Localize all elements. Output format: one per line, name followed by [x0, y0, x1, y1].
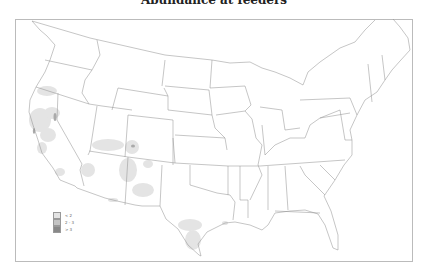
legend-item-mid: 2 - 3 [53, 219, 74, 226]
legend-label: > 3 [65, 227, 72, 232]
legend-swatch-low [53, 212, 61, 219]
legend-label: < 2 [65, 213, 72, 218]
legend-label: 2 - 3 [65, 220, 74, 225]
legend-swatch-mid [53, 219, 61, 226]
us-states-map [0, 0, 428, 275]
legend-item-high: > 3 [53, 226, 74, 233]
state-boundaries [29, 19, 410, 256]
legend-item-low: < 2 [53, 212, 74, 219]
legend: < 2 2 - 3 > 3 [53, 212, 74, 233]
legend-swatch-high [53, 226, 61, 233]
